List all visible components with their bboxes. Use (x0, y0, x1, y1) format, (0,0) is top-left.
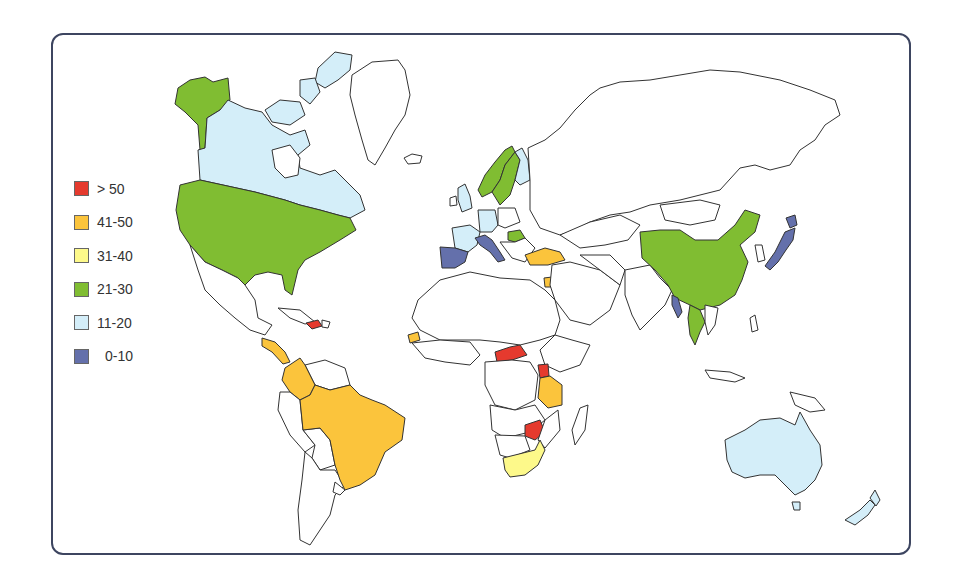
legend-swatch-green (74, 282, 89, 297)
central-african-republic (495, 345, 527, 362)
canadian-arctic-islands (315, 52, 352, 88)
greenland (350, 60, 410, 165)
ireland (450, 196, 457, 206)
germany (478, 210, 498, 232)
senegal (408, 332, 420, 343)
congo (485, 360, 538, 410)
legend-label: 41-50 (97, 214, 133, 230)
legend-swatch-blue (74, 349, 89, 364)
legend-label: 0-10 (105, 348, 133, 364)
madagascar (572, 405, 588, 445)
canadian-arctic-islands-2 (265, 100, 305, 125)
japan-hokkaido (786, 215, 797, 228)
legend-item-0-10: 0-10 (74, 340, 133, 374)
legend-label: 21-30 (97, 281, 133, 297)
dominican-republic (322, 320, 330, 328)
legend: > 50 41-50 31-40 21-30 11-20 0-10 (74, 172, 133, 373)
uganda (538, 364, 549, 378)
philippines (750, 315, 758, 332)
legend-item-gt50: > 50 (74, 172, 133, 206)
korea (755, 245, 765, 262)
legend-item-31-40: 31-40 (74, 239, 133, 273)
tanzania (538, 376, 562, 408)
new-guinea (790, 392, 825, 412)
world-map (0, 0, 954, 579)
legend-label: 31-40 (97, 248, 133, 264)
tasmania (792, 502, 800, 510)
legend-swatch-red (74, 181, 89, 196)
central-america (262, 338, 290, 364)
vietnam (705, 305, 718, 335)
cuba (278, 308, 315, 324)
legend-item-11-20: 11-20 (74, 306, 133, 340)
iceland (404, 154, 422, 164)
legend-label: > 50 (97, 181, 125, 197)
legend-swatch-yellow (74, 248, 89, 263)
new-zealand (845, 500, 875, 525)
australia (725, 412, 822, 495)
japan (765, 228, 795, 270)
poland (498, 208, 520, 228)
indonesia (705, 370, 745, 382)
legend-swatch-orange (74, 215, 89, 230)
legend-swatch-light-blue (74, 315, 89, 330)
west-africa (412, 340, 480, 365)
thailand (688, 305, 705, 345)
united-kingdom (458, 184, 472, 212)
legend-item-21-30: 21-30 (74, 273, 133, 307)
italy (475, 235, 505, 262)
north-africa (412, 272, 560, 345)
legend-label: 11-20 (97, 315, 132, 331)
mongolia (660, 200, 720, 225)
legend-item-41-50: 41-50 (74, 206, 133, 240)
